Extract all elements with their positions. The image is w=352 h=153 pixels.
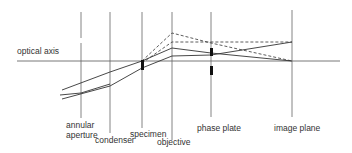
specimen-marker: [141, 60, 144, 70]
objective-label: objective: [157, 137, 191, 147]
phase-plate-label: phase plate: [197, 123, 241, 133]
image-plane-label: image plane: [274, 123, 320, 133]
phase-plate-ring-upper: [210, 48, 213, 56]
diffracted-ray-mid: [142, 42, 292, 63]
annular-aperture-label-1: annular: [66, 120, 94, 130]
direct-ray-upper: [62, 48, 292, 90]
phase-plate-ring-lower: [210, 66, 213, 75]
phase-contrast-diagram: optical axis annular aperture condenser …: [0, 0, 352, 153]
optical-axis-label: optical axis: [17, 46, 59, 56]
direct-ray-cross: [60, 84, 110, 95]
annular-aperture-label-2: aperture: [66, 130, 98, 140]
direct-ray-lower: [62, 42, 292, 99]
condenser-label: condenser: [95, 135, 135, 145]
